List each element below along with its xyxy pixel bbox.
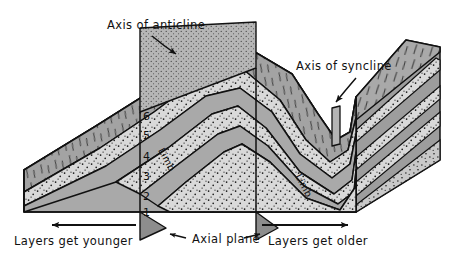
bed-number-6: 6 — [143, 110, 150, 123]
layers-get-younger-label: Layers get younger — [14, 234, 133, 248]
bed-number-2: 2 — [143, 190, 150, 203]
bed-number-1: 1 — [143, 206, 150, 219]
axial-plane-label: Axial plane — [192, 232, 260, 246]
bed-number-3: 3 — [143, 170, 150, 183]
layers-get-older-label: Layers get older — [268, 234, 368, 248]
syncline-axial-fin — [332, 106, 340, 146]
syncline-leader-arrow — [336, 78, 356, 102]
figure-canvas: Axis of anticline Axis of syncline Axial… — [0, 0, 458, 265]
axial-plane-left-arrow — [170, 234, 186, 238]
bed-number-5: 5 — [143, 129, 150, 142]
axis-of-syncline-label: Axis of syncline — [296, 59, 392, 73]
block-diagram-svg — [0, 0, 458, 265]
axis-of-anticline-label: Axis of anticline — [107, 18, 205, 32]
bed-number-4: 4 — [143, 150, 150, 163]
